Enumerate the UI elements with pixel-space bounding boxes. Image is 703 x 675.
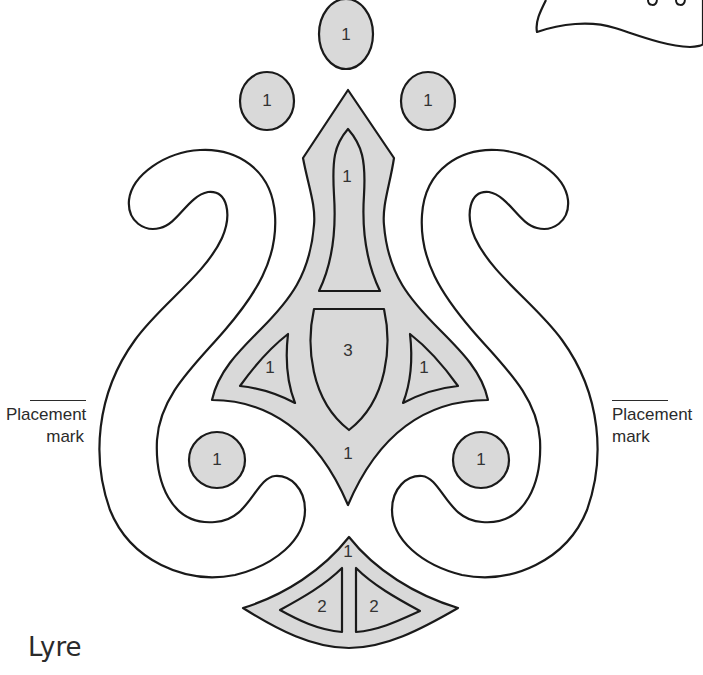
svg-text:1: 1 bbox=[343, 542, 352, 561]
pattern-title: Lyre bbox=[28, 632, 82, 662]
placement-mark-label-left: Placement mark bbox=[6, 404, 84, 448]
placement-mark-right-line1: Placement bbox=[612, 404, 703, 426]
placement-mark-left-line2: mark bbox=[6, 426, 84, 448]
placement-mark-line-left bbox=[30, 400, 86, 401]
lower-left-circle-piece: 1 bbox=[189, 432, 245, 488]
svg-text:1: 1 bbox=[476, 450, 485, 469]
svg-text:3: 3 bbox=[343, 341, 352, 360]
svg-text:1: 1 bbox=[341, 25, 350, 44]
lyre-applique-pattern: 1 1 1 1 1 3 1 1 1 1 bbox=[0, 0, 703, 675]
placement-mark-line-right bbox=[612, 400, 668, 401]
svg-text:1: 1 bbox=[419, 358, 428, 377]
svg-text:1: 1 bbox=[262, 91, 271, 110]
svg-text:1: 1 bbox=[343, 444, 352, 463]
placement-mark-right-line2: mark bbox=[612, 426, 703, 448]
svg-text:2: 2 bbox=[369, 597, 378, 616]
svg-text:1: 1 bbox=[423, 91, 432, 110]
upper-left-circle-piece: 1 bbox=[240, 72, 294, 130]
partial-bubble-shape bbox=[537, 0, 703, 47]
top-circle-piece: 1 bbox=[319, 0, 373, 69]
placement-mark-left-line1: Placement bbox=[6, 404, 84, 426]
svg-text:1: 1 bbox=[212, 450, 221, 469]
placement-mark-label-right: Placement mark bbox=[612, 404, 703, 448]
svg-text:1: 1 bbox=[342, 167, 351, 186]
svg-text:2: 2 bbox=[317, 597, 326, 616]
lower-right-circle-piece: 1 bbox=[453, 432, 509, 488]
svg-text:1: 1 bbox=[265, 358, 274, 377]
upper-right-circle-piece: 1 bbox=[401, 72, 455, 130]
